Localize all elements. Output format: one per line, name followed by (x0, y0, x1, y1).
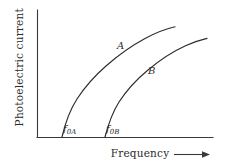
photoelectric-current-vs-frequency-chart: Photoelectric current Frequency A B f0A … (0, 0, 225, 166)
chart-plot-area (0, 0, 225, 166)
threshold-subscript-b: 0B (110, 128, 120, 136)
threshold-frequency-label-a: f0A (63, 124, 76, 136)
curve-series-b (105, 38, 207, 137)
curve-label-a: A (117, 41, 124, 51)
x-axis-arrow-head (202, 151, 210, 158)
x-axis-label: Frequency (111, 148, 170, 159)
threshold-frequency-label-b: f0B (106, 124, 119, 136)
curve-label-b: B (148, 66, 155, 76)
threshold-subscript-a: 0A (67, 128, 77, 136)
y-axis-label: Photoelectric current (14, 7, 25, 127)
